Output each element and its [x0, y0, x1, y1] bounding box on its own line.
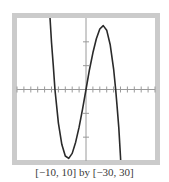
graph-plot	[0, 0, 169, 182]
window-caption: [−10, 10] by [−30, 30]	[0, 165, 169, 179]
cubic-curve	[49, 0, 122, 182]
